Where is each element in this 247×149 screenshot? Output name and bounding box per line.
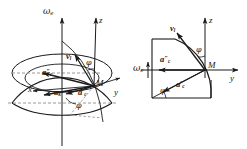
label-ac-single-prime-right: a′c: [176, 80, 185, 89]
label-ak-coriolis-left: ak: [54, 88, 61, 97]
label-omega-e-right: ωe: [133, 64, 144, 74]
label-axis-y-right: y: [230, 74, 234, 83]
label-omega-e-left: ωe: [43, 7, 54, 17]
label-phi-upper-right: φ: [196, 46, 202, 54]
label-phi-lower-left: φ: [76, 102, 82, 110]
label-phi-upper-left: φ: [86, 59, 92, 67]
label-velocity-v-right: vl: [170, 24, 175, 33]
point-m-marker: [93, 85, 95, 87]
label-phi-lower-right: φ: [160, 87, 166, 95]
local-z-axis-arrow: [94, 18, 96, 86]
angle-arc-phi-upper-right: [198, 56, 205, 57]
label-velocity-v-left: vl: [66, 52, 71, 61]
label-ac-double-prime-left: a″c: [42, 68, 52, 77]
label-axis-y-left: y: [114, 88, 118, 97]
right-cross-section-group: [141, 18, 238, 98]
diagram-canvas: ωe z x y M vl a″c ak a′c φ φ ωe z y M vl…: [0, 0, 247, 149]
label-axis-z-right: z: [209, 16, 213, 25]
label-axis-x-left: x: [28, 85, 32, 94]
projection-dashed-line-2: [70, 115, 103, 118]
label-axis-z-left: z: [99, 16, 103, 25]
label-point-m-left: M: [96, 79, 104, 88]
label-point-m-right: M: [208, 61, 216, 70]
point-m-marker-right: [204, 69, 206, 71]
label-ac-double-prime-right: a″c: [160, 55, 170, 64]
label-ac-single-prime-left: a′c: [78, 88, 87, 97]
